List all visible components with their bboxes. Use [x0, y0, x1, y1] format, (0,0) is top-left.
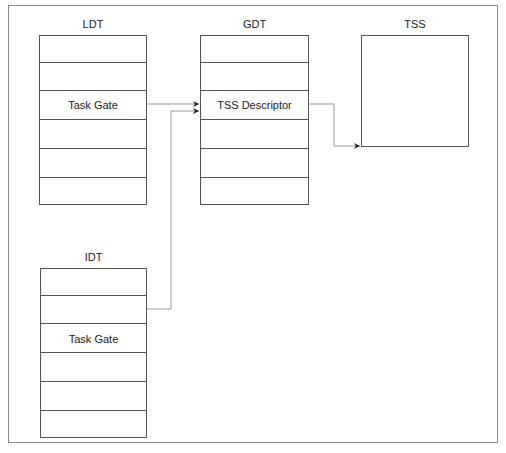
arrow-idt-to-gdt — [147, 111, 199, 309]
arrow-gdt-to-tss — [309, 104, 360, 146]
connector-layer — [0, 0, 506, 453]
